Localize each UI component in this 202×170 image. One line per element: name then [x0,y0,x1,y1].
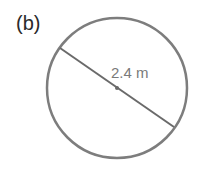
center-point [115,86,119,90]
diameter-label: 2.4 m [111,64,149,81]
circle-diagram: 2.4 m [0,0,202,170]
